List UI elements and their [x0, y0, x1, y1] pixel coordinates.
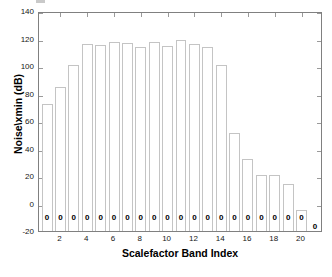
bar-value-label: 0	[125, 214, 129, 222]
y-tick-label: 140	[21, 8, 34, 16]
y-tick-label: -20	[22, 228, 34, 236]
y-tick-mark	[317, 68, 321, 69]
bar-value-label: 0	[259, 214, 263, 222]
x-axis-tick-labels: 2468101214161820	[38, 234, 322, 246]
y-tick-label: 20	[25, 173, 34, 181]
x-tick-label: 12	[189, 234, 198, 243]
y-tick-mark	[39, 13, 43, 14]
x-tick-mark	[275, 13, 276, 17]
x-tick-label: 20	[296, 234, 305, 243]
x-tick-label: 8	[138, 234, 142, 243]
bar-value-label: 0	[72, 214, 76, 222]
y-tick-mark	[317, 178, 321, 179]
bar	[95, 45, 106, 231]
bar	[283, 184, 294, 231]
x-tick-mark	[87, 13, 88, 17]
y-tick-label: 0	[30, 201, 34, 209]
bar-value-label: 0	[179, 214, 183, 222]
bar-value-label: 0	[232, 214, 236, 222]
x-tick-mark	[168, 13, 169, 17]
x-tick-label: 16	[243, 234, 252, 243]
x-tick-mark	[302, 13, 303, 17]
y-tick-mark	[317, 13, 321, 14]
x-axis-title: Scalefactor Band Index	[38, 247, 322, 259]
y-tick-mark	[317, 151, 321, 152]
bar-value-label: 0	[165, 214, 169, 222]
x-tick-label: 4	[84, 234, 88, 243]
cropped-top-artifact	[36, 0, 45, 3]
bar-value-label: 0	[112, 214, 116, 222]
bar-value-label: 0	[139, 214, 143, 222]
y-axis-title: Noise\xmin (dB)	[12, 49, 24, 179]
bar	[176, 40, 187, 231]
x-tick-mark	[248, 13, 249, 17]
plot-area: 000000000000000000000	[39, 13, 321, 231]
bar	[135, 47, 146, 231]
y-tick-mark	[317, 206, 321, 207]
y-tick-mark	[39, 96, 43, 97]
x-tick-label: 14	[216, 234, 225, 243]
y-tick-mark	[317, 41, 321, 42]
bar-value-label: 0	[313, 223, 317, 231]
x-tick-label: 6	[111, 234, 115, 243]
x-tick-label: 2	[57, 234, 61, 243]
figure-canvas: 140120100806040200-20 000000000000000000…	[0, 0, 332, 277]
x-tick-mark	[60, 13, 61, 17]
bar	[202, 47, 213, 231]
bar-value-label: 0	[98, 214, 102, 222]
bar-value-label: 0	[45, 214, 49, 222]
y-tick-mark	[317, 96, 321, 97]
bar	[162, 46, 173, 231]
bar-value-label: 0	[85, 214, 89, 222]
bar-value-label: 0	[273, 214, 277, 222]
x-tick-label: 18	[269, 234, 278, 243]
bar	[269, 175, 280, 231]
x-tick-mark	[141, 13, 142, 17]
y-tick-label: 120	[21, 36, 34, 44]
bar	[122, 43, 133, 231]
bar-value-label: 0	[58, 214, 62, 222]
bar	[68, 65, 79, 231]
x-tick-mark	[221, 13, 222, 17]
x-tick-label: 10	[162, 234, 171, 243]
bar-value-label: 0	[192, 214, 196, 222]
y-tick-label: 80	[25, 91, 34, 99]
plot-axes: 000000000000000000000	[38, 12, 322, 232]
y-tick-label: 40	[25, 146, 34, 154]
bar	[216, 65, 227, 231]
bar-value-label: 0	[152, 214, 156, 222]
bar-value-label: 0	[246, 214, 250, 222]
bar	[189, 44, 200, 231]
bar-value-label: 0	[206, 214, 210, 222]
bar	[149, 42, 160, 231]
bar-value-label: 0	[286, 214, 290, 222]
y-tick-mark	[39, 41, 43, 42]
x-tick-mark	[114, 13, 115, 17]
bar-value-label: 0	[299, 214, 303, 222]
y-tick-mark	[39, 68, 43, 69]
y-tick-label: 60	[25, 118, 34, 126]
bar	[82, 44, 93, 231]
bar	[256, 175, 267, 231]
bar	[109, 42, 120, 231]
x-tick-mark	[194, 13, 195, 17]
bar-value-label: 0	[219, 214, 223, 222]
bar	[55, 87, 66, 231]
y-tick-mark	[317, 123, 321, 124]
